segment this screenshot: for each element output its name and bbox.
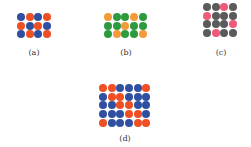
dot-blue: [99, 110, 107, 118]
dot-red: [125, 110, 133, 118]
dot-blue: [34, 13, 42, 21]
dot-blue: [125, 93, 133, 101]
dot-blue: [134, 84, 142, 92]
dot-gray: [220, 20, 228, 28]
dot-blue: [142, 101, 150, 109]
dot-blue: [134, 101, 142, 109]
dot-blue: [108, 119, 116, 127]
dot-red: [116, 101, 124, 109]
dot-blue: [108, 110, 116, 118]
dot-green: [104, 22, 112, 30]
dot-red: [26, 13, 34, 21]
dot-gray: [212, 20, 220, 28]
dot-blue: [142, 93, 150, 101]
dot-red: [108, 84, 116, 92]
dot-blue: [108, 101, 116, 109]
dot-orange: [121, 22, 129, 30]
dot-grid-a: [17, 13, 51, 38]
dot-red: [134, 110, 142, 118]
dot-green: [121, 30, 129, 38]
dot-gray: [229, 12, 237, 20]
dot-green: [139, 22, 147, 30]
dot-pink: [220, 3, 228, 11]
dot-gray: [220, 12, 228, 20]
dot-red: [17, 22, 25, 30]
dot-red: [134, 119, 142, 127]
dot-blue: [142, 110, 150, 118]
dot-green: [104, 30, 112, 38]
dot-grid-c: [203, 3, 237, 37]
dot-green: [130, 30, 138, 38]
dot-red: [99, 119, 107, 127]
dot-green: [113, 22, 121, 30]
dot-blue: [26, 22, 34, 30]
dot-red: [108, 93, 116, 101]
dot-blue: [99, 101, 107, 109]
dot-red: [142, 119, 150, 127]
dot-gray: [203, 20, 211, 28]
panel-label-a: (a): [28, 49, 39, 57]
dot-green: [121, 13, 129, 21]
dot-red: [43, 13, 51, 21]
dot-gray: [212, 3, 220, 11]
dot-blue: [116, 84, 124, 92]
dot-blue: [116, 110, 124, 118]
dot-blue: [17, 13, 25, 21]
dot-gray: [229, 3, 237, 11]
dot-blue: [125, 84, 133, 92]
dot-red: [99, 84, 107, 92]
dot-red: [116, 93, 124, 101]
dot-green: [113, 13, 121, 21]
dot-gray: [212, 12, 220, 20]
dot-red: [142, 84, 150, 92]
panel-label-d: (d): [119, 135, 130, 143]
dot-blue: [34, 30, 42, 38]
dot-green: [130, 22, 138, 30]
dot-grid-b: [104, 13, 147, 38]
panel-label-c: (c): [216, 49, 227, 57]
dot-blue: [43, 22, 51, 30]
dot-gray: [203, 29, 211, 37]
dot-red: [43, 30, 51, 38]
dot-pink: [229, 20, 237, 28]
dot-blue: [134, 93, 142, 101]
dot-blue: [17, 30, 25, 38]
panel-label-b: (b): [120, 49, 131, 57]
dot-blue: [99, 93, 107, 101]
dot-orange: [139, 30, 147, 38]
dot-gray: [220, 29, 228, 37]
dot-pink: [203, 12, 211, 20]
dot-green: [139, 13, 147, 21]
dot-gray: [203, 3, 211, 11]
dot-grid-d: [99, 84, 150, 127]
dot-orange: [113, 30, 121, 38]
dot-blue: [116, 119, 124, 127]
dot-blue: [125, 119, 133, 127]
dot-orange: [104, 13, 112, 21]
dot-red: [125, 101, 133, 109]
dot-red: [34, 22, 42, 30]
dot-orange: [130, 13, 138, 21]
dot-pink: [212, 29, 220, 37]
dot-red: [26, 30, 34, 38]
dot-gray: [229, 29, 237, 37]
